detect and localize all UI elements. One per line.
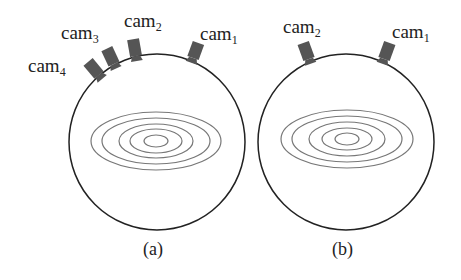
sphere-outline-b	[258, 54, 434, 230]
contour-ellipses-b	[281, 110, 413, 168]
camera-icon	[186, 41, 204, 65]
diagram-canvas: cam1 cam2 cam3 cam4 (a) cam2 cam1 (b)	[0, 0, 461, 280]
camera-label-cam2: cam2	[124, 10, 162, 34]
camera-label-cam4: cam4	[28, 55, 66, 79]
sphere-outline-a	[69, 54, 245, 230]
panel-caption-b: (b)	[332, 239, 353, 260]
camera-label-cam2: cam2	[283, 16, 321, 40]
panel-caption-a: (a)	[143, 239, 163, 260]
camera-label-cam1: cam1	[392, 21, 430, 45]
contour-ellipses-a	[91, 112, 221, 170]
panel-b: cam2 cam1 (b)	[258, 16, 434, 260]
camera-icon	[298, 41, 317, 66]
camera-icon	[101, 46, 121, 71]
camera-label-cam3: cam3	[61, 22, 99, 46]
camera-label-cam1: cam1	[200, 23, 238, 47]
camera-icon	[377, 41, 396, 66]
panel-a: cam1 cam2 cam3 cam4 (a)	[28, 10, 245, 260]
